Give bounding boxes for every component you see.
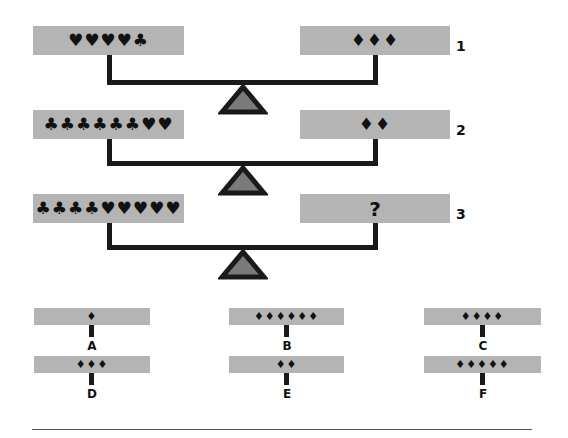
scale-3-left-symbols: ♣♣♣♣♥♥♥♥♥ — [35, 200, 181, 217]
option-b-pan[interactable]: ♦♦♦♦♦♦ — [229, 308, 344, 325]
option-d-post — [89, 373, 94, 385]
scale-2-number: 2 — [456, 122, 466, 138]
option-d-pan[interactable]: ♦♦♦ — [34, 356, 150, 373]
option-d-label[interactable]: D — [82, 387, 102, 401]
scale-2-right-symbols: ♦♦ — [359, 116, 391, 133]
scale-2-left-pan: ♣♣♣♣♣♣♥♥ — [33, 110, 184, 139]
option-e-pan[interactable]: ♦♦ — [229, 356, 344, 373]
option-c-label[interactable]: C — [473, 339, 493, 353]
scale-2-left-symbols: ♣♣♣♣♣♣♥♥ — [44, 116, 174, 133]
scale-3-number: 3 — [456, 206, 466, 222]
scale-3-right-pan: ? — [300, 194, 450, 223]
option-a-pan[interactable]: ♦ — [34, 308, 150, 325]
bottom-divider — [32, 429, 532, 430]
scale-1-number: 1 — [456, 38, 466, 54]
scale-3-fulcrum-icon — [218, 249, 268, 280]
scale-3-left-pan: ♣♣♣♣♥♥♥♥♥ — [33, 194, 184, 223]
option-c-symbols: ♦♦♦♦ — [461, 311, 504, 322]
option-c-pan[interactable]: ♦♦♦♦ — [424, 308, 541, 325]
option-b-symbols: ♦♦♦♦♦♦ — [254, 311, 319, 322]
scale-1-left-symbols: ♥♥♥♥♣ — [68, 32, 149, 49]
option-a-post — [89, 325, 94, 337]
option-b-post — [284, 325, 289, 337]
option-a-symbols: ♦ — [87, 311, 98, 322]
option-e-symbols: ♦♦ — [276, 359, 298, 370]
scale-1-right-symbols: ♦♦♦ — [351, 32, 400, 49]
scale-2-fulcrum-icon — [218, 165, 268, 196]
scale-2-right-pan: ♦♦ — [300, 110, 450, 139]
option-c-post — [480, 325, 485, 337]
scale-1-fulcrum-icon — [218, 84, 268, 115]
scale-1-right-pan: ♦♦♦ — [300, 26, 450, 55]
option-f-label[interactable]: F — [473, 387, 493, 401]
scale-1-left-pan: ♥♥♥♥♣ — [33, 26, 184, 55]
option-f-symbols: ♦♦♦♦♦ — [455, 359, 509, 370]
scale-3-unknown-marker: ? — [369, 197, 381, 221]
option-b-label[interactable]: B — [277, 339, 297, 353]
option-d-symbols: ♦♦♦ — [76, 359, 109, 370]
option-e-post — [284, 373, 289, 385]
option-a-label[interactable]: A — [82, 339, 102, 353]
option-e-label[interactable]: E — [277, 387, 297, 401]
option-f-post — [480, 373, 485, 385]
option-f-pan[interactable]: ♦♦♦♦♦ — [424, 356, 541, 373]
